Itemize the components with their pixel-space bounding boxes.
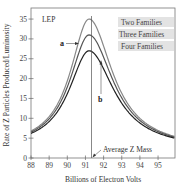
x-tick-label: 95 <box>154 161 162 170</box>
y-axis-title: Rate of Z Particles Produced/Luminosity <box>2 23 11 146</box>
annotation-b: b <box>98 95 103 104</box>
x-tick-label: 88 <box>27 161 35 170</box>
y-tick-label: 5 <box>23 134 27 143</box>
lep-label: LEP <box>42 15 55 24</box>
y-tick-label: 35 <box>20 15 28 24</box>
x-tick-label: 92 <box>100 161 108 170</box>
legend-label-three: Three Families <box>119 30 164 39</box>
average-z-mass-label: Average Z Mass <box>103 145 152 154</box>
y-tick-label: 15 <box>20 94 28 103</box>
x-tick-label: 90 <box>64 161 72 170</box>
x-tick-label: 93 <box>118 161 126 170</box>
four-families-curve <box>31 51 174 138</box>
y-tick-label: 20 <box>20 74 28 83</box>
x-tick-label: 89 <box>45 161 53 170</box>
x-tick-label: 94 <box>136 161 144 170</box>
y-tick-label: 25 <box>20 54 28 63</box>
x-axis-title: Billions of Electron Volts <box>65 175 141 184</box>
legend-label-four: Four Families <box>121 42 163 51</box>
x-tick-label: 91 <box>82 161 90 170</box>
z-resonance-chart: 05101520253035 8889909192939495 Two Fami… <box>0 0 182 189</box>
annotation-a: a <box>60 39 64 48</box>
y-tick-label: 10 <box>20 114 28 123</box>
y-tick-label: 30 <box>20 34 28 43</box>
legend-label-two: Two Families <box>121 18 162 27</box>
legend: Two Families Three Families Four Familie… <box>118 17 174 51</box>
arrow-zmass-head <box>93 154 97 158</box>
